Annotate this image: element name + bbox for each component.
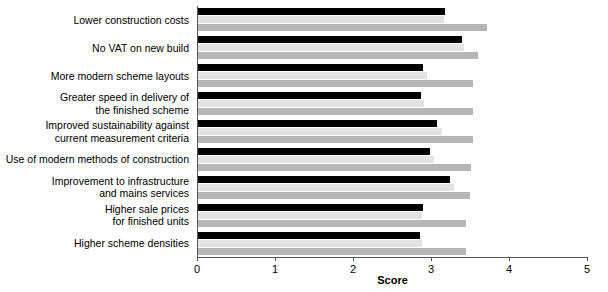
x-axis-tick	[509, 257, 510, 261]
category-label: Improvement to infrastructure and mains …	[52, 175, 189, 200]
bar-series-3	[198, 24, 487, 31]
bar-series-3	[198, 248, 466, 255]
bar-series-3	[198, 80, 473, 87]
x-axis-tick	[275, 257, 276, 261]
category-label: No VAT on new build	[92, 42, 189, 55]
bar-series-3	[198, 136, 473, 143]
bar-series-3	[198, 164, 471, 171]
bar-series-2	[198, 156, 434, 163]
bar-series-2	[198, 72, 427, 79]
x-axis-tick	[431, 257, 432, 261]
category-label: Higher sale prices for finished units	[105, 203, 189, 228]
category-label: Higher scheme densities	[74, 237, 189, 250]
bar-series-3	[198, 52, 478, 59]
bar-series-2	[198, 44, 464, 51]
x-axis-tick	[353, 257, 354, 261]
bar-series-2	[198, 16, 444, 23]
bar-series-1	[198, 36, 462, 43]
bar-series-2	[198, 128, 442, 135]
bar-series-1	[198, 232, 420, 239]
x-axis-tick	[587, 257, 588, 261]
bar-series-2	[198, 212, 422, 219]
bar-series-1	[198, 176, 450, 183]
category-label: More modern scheme layouts	[51, 70, 189, 83]
bar-series-1	[198, 120, 437, 127]
bar-series-1	[198, 8, 445, 15]
plot-area: 012345	[197, 6, 588, 257]
category-label: Greater speed in delivery of the finishe…	[60, 91, 189, 116]
bar-series-1	[198, 64, 423, 71]
category-label: Lower construction costs	[73, 14, 189, 27]
bar-series-3	[198, 108, 473, 115]
bar-series-1	[198, 148, 430, 155]
x-axis-title: Score	[197, 274, 588, 286]
x-axis-line	[197, 257, 588, 258]
x-axis-tick	[197, 257, 198, 261]
bar-series-3	[198, 192, 470, 199]
category-label: Use of modern methods of construction	[6, 153, 189, 166]
bar-series-2	[198, 184, 454, 191]
bar-series-1	[198, 204, 423, 211]
bar-series-1	[198, 92, 421, 99]
bar-series-3	[198, 220, 466, 227]
bar-series-2	[198, 100, 424, 107]
category-label-column: Lower construction costsNo VAT on new bu…	[0, 0, 193, 255]
category-label: Improved sustainability against current …	[45, 119, 189, 144]
bar-series-2	[198, 240, 422, 247]
horizontal-bar-chart: Lower construction costsNo VAT on new bu…	[0, 0, 608, 292]
